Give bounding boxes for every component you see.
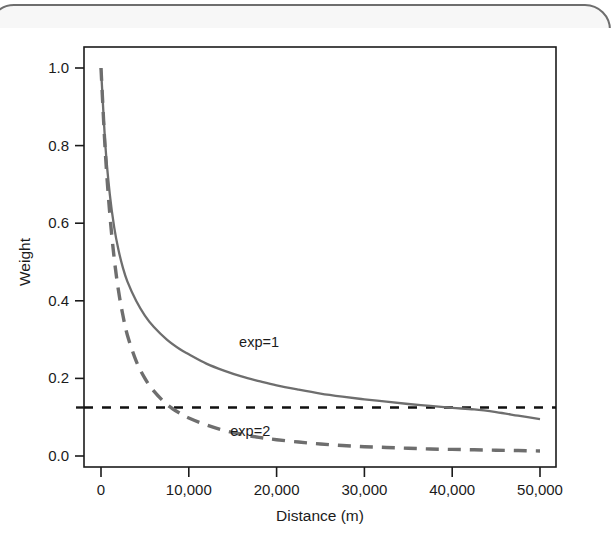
x-tick-label-10,000: 10,000 — [166, 481, 212, 498]
x-axis-ticks — [101, 467, 540, 477]
y-axis-title: Weight — [16, 237, 33, 286]
x-axis-title: Distance (m) — [276, 507, 364, 524]
series-line-exp=1 — [101, 68, 540, 419]
series-annotations: exp=1exp=2 — [230, 334, 279, 439]
y-tick-label-0.6: 0.6 — [48, 214, 69, 231]
y-tick-label-0.4: 0.4 — [48, 292, 69, 309]
x-tick-label-0: 0 — [97, 481, 105, 498]
y-tick-label-0.2: 0.2 — [48, 369, 69, 386]
series-label-exp=1: exp=1 — [239, 334, 279, 350]
x-tick-label-20,000: 20,000 — [254, 481, 300, 498]
series-label-exp=2: exp=2 — [230, 423, 270, 439]
y-axis-ticks — [75, 68, 84, 456]
y-tick-label-1.0: 1.0 — [48, 59, 69, 76]
y-tick-label-0.0: 0.0 — [48, 447, 69, 464]
y-axis-tick-labels: 0.00.20.40.60.81.0 — [48, 59, 69, 464]
x-tick-label-30,000: 30,000 — [341, 481, 387, 498]
x-axis-tick-labels: 010,00020,00030,00040,00050,000 — [97, 481, 563, 498]
x-tick-label-40,000: 40,000 — [429, 481, 475, 498]
x-tick-label-50,000: 50,000 — [517, 481, 563, 498]
plot-frame — [84, 47, 556, 467]
y-tick-label-0.8: 0.8 — [48, 137, 69, 154]
data-series-group — [101, 68, 540, 451]
